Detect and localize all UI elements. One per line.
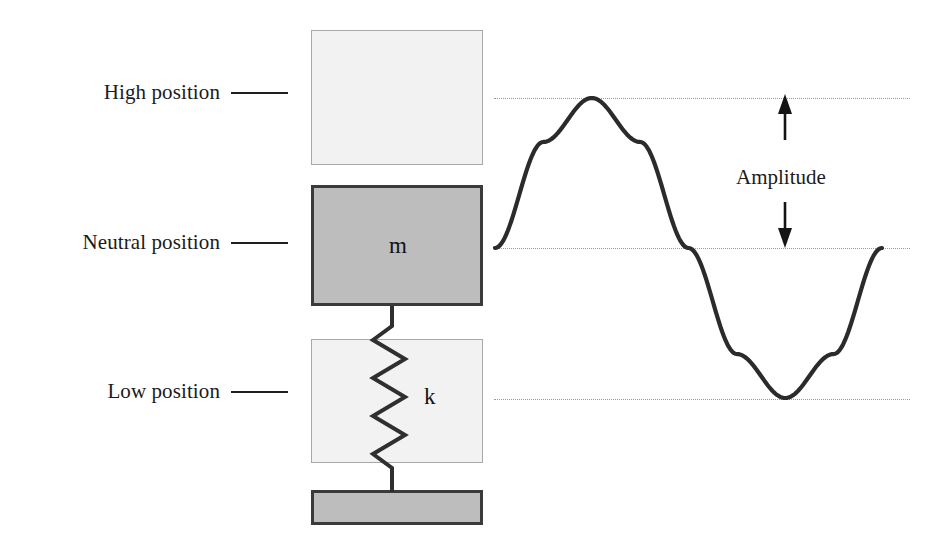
label-low-position: Low position: [10, 381, 220, 402]
mass-symbol: m: [389, 234, 407, 257]
leader-line-neutral-position: [231, 242, 288, 244]
spring-coil: [360, 300, 420, 496]
leader-line-low-position: [231, 391, 288, 393]
amplitude-arrow-down: [762, 198, 808, 258]
label-neutral-position: Neutral position: [10, 232, 220, 253]
leader-line-high-position: [231, 92, 288, 94]
spring-constant-symbol: k: [424, 385, 436, 408]
amplitude-label: Amplitude: [736, 167, 826, 188]
label-high-position: High position: [10, 82, 220, 103]
ghost-box-high-position: [311, 30, 483, 165]
figure-canvas: High position Neutral position Low posit…: [0, 0, 944, 556]
sine-wave-curve: [480, 80, 900, 420]
